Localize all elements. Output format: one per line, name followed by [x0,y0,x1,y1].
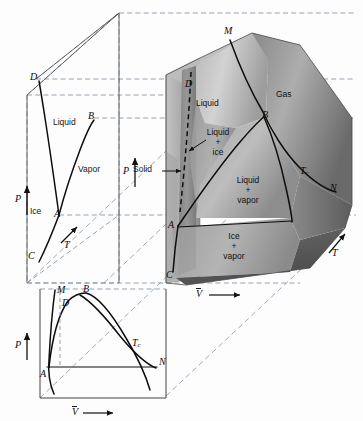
surface-region-gas: Gas [276,90,292,99]
surface-region-liquid: Liquid [196,99,219,108]
pt-point-b: B [88,111,94,121]
pv-axis-v-label: V [72,407,78,417]
pv-point-m: M [57,285,65,295]
pv-point-b: B [83,284,89,294]
surface-axis-t-label: T [332,248,338,258]
surface-region-liquid-vapor-plus: + [228,186,268,195]
pt-region-ice: Ice [30,207,41,216]
surface-point-m: M [224,26,232,36]
surface-point-n: N [330,183,337,193]
surface-region-liquid-ice-line2: ice [200,148,236,157]
surface-region-ice-vapor-line1: Ice [214,232,254,241]
construction-box-solid-edges [27,13,119,283]
pv-point-d: D [62,298,69,308]
pt-region-vapor: Vapor [78,165,100,174]
pv-isotherm-tc: Tc [132,338,140,349]
surface-axis-v-label: V [196,289,202,299]
pvt-surface-body [166,33,352,285]
surface-point-d: D [185,79,192,89]
pv-point-n: N [159,357,166,367]
pt-axis-p-label: P [15,194,21,204]
pv-axis-v-glyph: V [72,407,78,417]
surface-region-liquid-vapor-line1: Liquid [228,176,268,185]
pv-isotherm-c-glyph: c [138,341,141,348]
figure-canvas: D B A C Liquid Vapor Ice P T M D B A C N… [0,0,363,421]
surface-axis-p-label: P [123,166,129,176]
surface-region-ice-vapor-plus: + [214,242,254,251]
pt-point-a: A [54,209,60,219]
surface-point-c: C [166,270,173,280]
surface-isotherm-c-glyph: c [306,169,309,176]
surface-axis-v-glyph: V [196,289,202,299]
surface-region-liquid-vapor-line2: vapor [228,196,268,205]
surface-point-a: A [168,220,174,230]
pt-region-liquid: Liquid [53,118,76,127]
surface-region-liquid-ice-line1: Liquid [200,128,236,137]
pt-point-c: C [28,251,35,261]
pv-point-a: A [40,369,46,379]
surface-region-liquid-ice-plus: + [200,138,236,147]
surface-isotherm-tc: Tc [300,166,308,177]
surface-region-solid: Solid [133,165,152,174]
pt-axis-t-label: T [64,240,70,250]
surface-point-b: B [262,110,268,120]
surface-region-ice-vapor-line2: vapor [214,252,254,261]
pt-point-d: D [30,72,37,82]
pv-axis-p-label: P [15,340,21,350]
